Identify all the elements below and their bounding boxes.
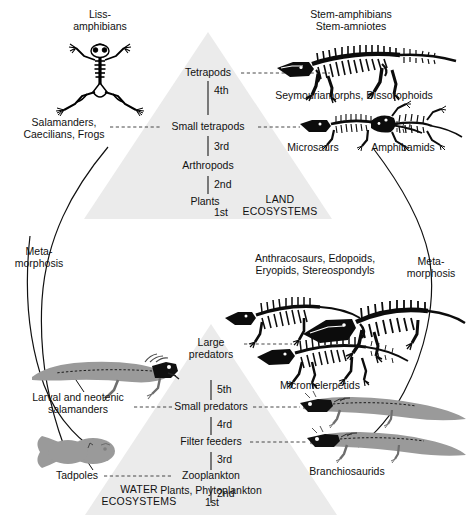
pointer-larval-salamanders bbox=[72, 374, 84, 392]
ordinal-water-4rd-label: 4rd bbox=[217, 418, 232, 430]
label-stem-amphibians: Stem-amphibians bbox=[310, 8, 392, 20]
tier-water-small-predators-label: Small predators bbox=[174, 400, 248, 412]
tier-water-filter-feeders: Filter feeders bbox=[180, 436, 241, 448]
label-larval-line2: salamanders bbox=[48, 403, 108, 415]
label-branchiosaurids-text: Branchiosaurids bbox=[309, 465, 384, 477]
ordinal-land-1st-label: 1st bbox=[214, 206, 228, 218]
label-metamorphosis-left-line1: Meta- bbox=[26, 245, 53, 257]
ordinal-water-1st-label: 1st bbox=[205, 496, 219, 508]
label-amphibamids: Amphibamids bbox=[371, 142, 435, 154]
ordinal-land-4th: 4th bbox=[214, 85, 229, 97]
metamorphosis-curves-right bbox=[358, 148, 432, 447]
label-stem-taxa: Stem-amphibians Stem-amniotes bbox=[310, 9, 392, 32]
label-metamorphosis-right: Meta- morphosis bbox=[407, 256, 455, 279]
pointer-tadpoles bbox=[83, 455, 93, 470]
ordinal-land-1st: 1st bbox=[214, 207, 228, 219]
label-modern-amphibians: Salamanders, Caecilians, Frogs bbox=[23, 117, 104, 140]
ordinal-land-2nd: 2nd bbox=[214, 179, 232, 191]
tier-land-tetrapods: Tetrapods bbox=[185, 67, 231, 79]
tier-land-arthropods: Arthropods bbox=[182, 160, 233, 172]
tier-land-small-tetrapods: Small tetrapods bbox=[172, 121, 245, 133]
pyramid-and-connector-layer bbox=[0, 0, 469, 529]
label-branchiosaurids: Branchiosaurids bbox=[309, 466, 384, 478]
label-lissamphibians-line2: amphibians bbox=[73, 20, 127, 32]
tier-water-plants-phytoplankton-label: Plants, Phytoplankton bbox=[160, 484, 262, 496]
label-modern-amphibians-line1: Salamanders, bbox=[32, 116, 97, 128]
label-land-ecosystems-line2: ECOSYSTEMS bbox=[243, 205, 318, 217]
label-micromelerpetids-text: Micromelerpetids bbox=[280, 379, 360, 391]
tier-land-arthropods-label: Arthropods bbox=[182, 159, 233, 171]
label-lissamphibians-line1: Liss- bbox=[89, 8, 111, 20]
label-land-ecosystems-line1: LAND bbox=[266, 193, 295, 205]
ordinal-land-4th-label: 4th bbox=[214, 84, 229, 96]
ordinal-water-1st: 1st bbox=[205, 497, 219, 509]
tier-water-large-predators-word-1: predators bbox=[189, 348, 233, 360]
tier-land-tetrapods-label: Tetrapods bbox=[185, 66, 231, 78]
tier-water-zooplankton-label: Zooplankton bbox=[182, 469, 240, 481]
tier-water-filter-feeders-label: Filter feeders bbox=[180, 435, 241, 447]
diagram-canvas: Liss- amphibians Salamanders, Caecilians… bbox=[0, 0, 469, 529]
label-amphibamids-text: Amphibamids bbox=[371, 141, 435, 153]
ordinal-water-3rd: 3rd bbox=[217, 454, 232, 466]
label-metamorphosis-left-line2: morphosis bbox=[15, 257, 63, 269]
label-water-ecosystems-line2: ECOSYSTEMS bbox=[102, 495, 177, 507]
label-microsaurs-text: Microsaurs bbox=[287, 141, 338, 153]
label-seymouriamorphs-text: Seymouriamorphs, Dissorophoids bbox=[275, 89, 433, 101]
label-stem-amniotes: Stem-amniotes bbox=[316, 20, 387, 32]
label-modern-amphibians-line2: Caecilians, Frogs bbox=[23, 128, 104, 140]
label-microsaurs: Microsaurs bbox=[287, 142, 338, 154]
label-anthracosaurs-line1: Anthracosaurs, Edopoids, bbox=[255, 252, 375, 264]
label-metamorphosis-right-line1: Meta- bbox=[418, 255, 445, 267]
ordinal-water-4rd: 4rd bbox=[217, 419, 232, 431]
ordinal-land-2nd-label: 2nd bbox=[214, 178, 232, 190]
ordinal-water-3rd-label: 3rd bbox=[217, 453, 232, 465]
label-metamorphosis-left: Meta- morphosis bbox=[15, 246, 63, 269]
label-tadpoles-text: Tadpoles bbox=[56, 469, 98, 481]
tier-water-zooplankton: Zooplankton bbox=[182, 470, 240, 482]
curve-amphibamids-to-branchiosaurids bbox=[358, 148, 432, 447]
tier-water-plants-phytoplankton: Plants, Phytoplankton bbox=[160, 485, 262, 497]
tier-water-large-predators: Largepredators bbox=[189, 337, 233, 360]
label-seymouriamorphs-dissorophoids: Seymouriamorphs, Dissorophoids bbox=[275, 90, 433, 102]
label-anthracosaurs-line2: Eryopids, Stereospondyls bbox=[255, 264, 374, 276]
ordinal-water-5th-label: 5th bbox=[217, 383, 232, 395]
ordinal-land-3rd-label: 3rd bbox=[214, 140, 229, 152]
label-micromelerpetids: Micromelerpetids bbox=[280, 380, 360, 392]
label-land-ecosystems: LAND ECOSYSTEMS bbox=[243, 193, 318, 217]
label-larval-line1: Larval and neotenic bbox=[32, 391, 124, 403]
label-larval-neotenic-salamanders: Larval and neotenic salamanders bbox=[32, 392, 124, 415]
ordinal-water-5th: 5th bbox=[217, 384, 232, 396]
label-tadpoles: Tadpoles bbox=[56, 470, 98, 482]
tier-water-small-predators: Small predators bbox=[174, 401, 248, 413]
callout-pointers bbox=[72, 374, 93, 470]
label-anthracosaurs-group: Anthracosaurs, Edopoids, Eryopids, Stere… bbox=[255, 253, 375, 276]
tier-land-small-tetrapods-label: Small tetrapods bbox=[172, 120, 245, 132]
label-lissamphibians: Liss- amphibians bbox=[73, 9, 127, 32]
label-metamorphosis-right-line2: morphosis bbox=[407, 267, 455, 279]
label-water-ecosystems-line1: WATER bbox=[120, 483, 158, 495]
ordinal-land-3rd: 3rd bbox=[214, 141, 229, 153]
tier-water-large-predators-word-0: Large bbox=[198, 336, 225, 348]
